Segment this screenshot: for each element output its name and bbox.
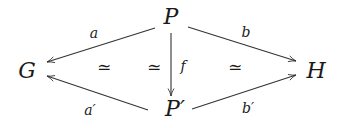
node-P: P [163, 4, 180, 29]
iso-symbol-f: ≃ [147, 57, 161, 77]
label-a-prime: a′ [84, 102, 96, 118]
commutative-diagram: G P P′ H a b f a′ b′ ≃ ≃ ≃ [0, 0, 340, 128]
label-f: f [179, 58, 188, 74]
arrow-a-prime [47, 76, 148, 110]
iso-symbol-left: ≃ [97, 57, 111, 77]
node-H: H [305, 58, 326, 83]
label-a: a [90, 25, 98, 41]
label-b: b [242, 24, 251, 40]
node-P-prime: P′ [164, 96, 185, 121]
node-G: G [18, 58, 36, 83]
label-b-prime: b′ [242, 100, 255, 116]
iso-symbol-right: ≃ [228, 57, 242, 77]
